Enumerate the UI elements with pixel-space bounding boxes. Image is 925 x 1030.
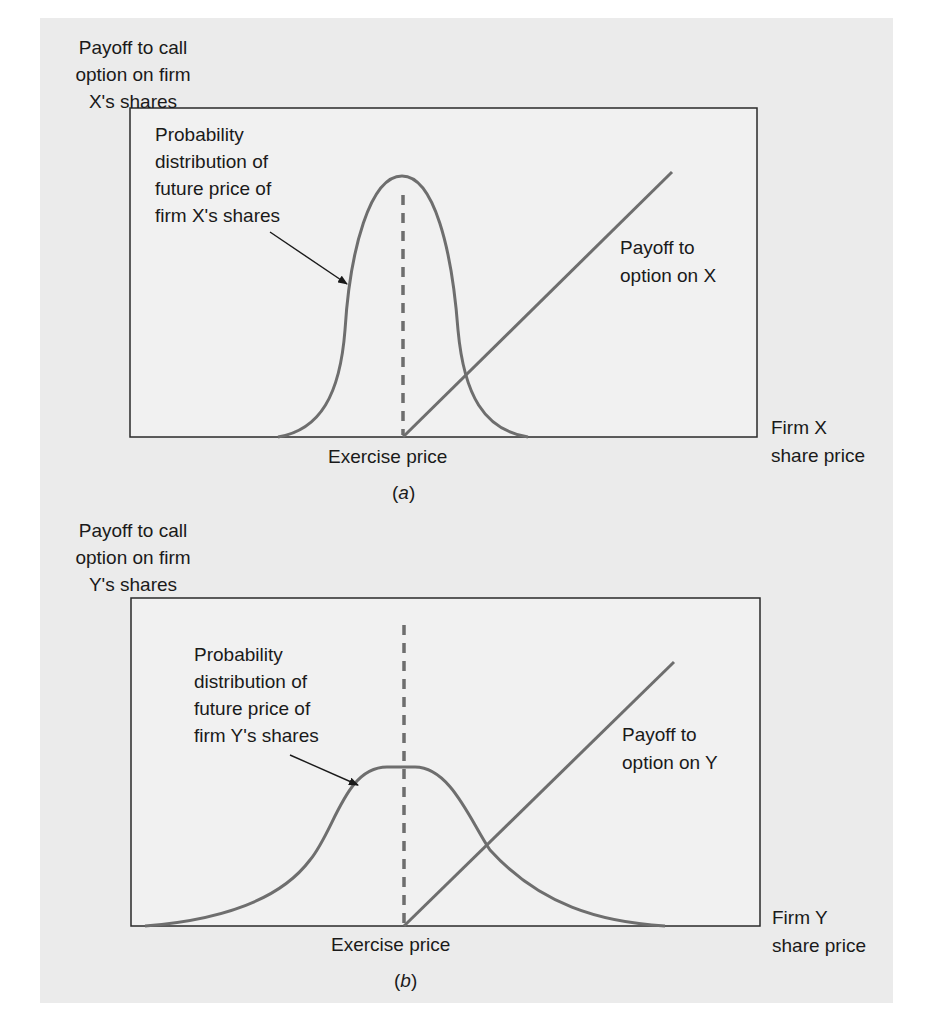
panel-a-distribution-label: Probability distribution of future price… (155, 121, 280, 229)
caption-letter: a (398, 482, 409, 503)
caption-close-paren: ) (409, 482, 415, 503)
panel-b-x-axis-label: Firm Y share price (772, 904, 866, 960)
panel-a-y-axis-label: Payoff to call option on firm X's shares (58, 34, 208, 115)
panel-a-caption: (a) (392, 482, 415, 504)
panel-b-caption: (b) (394, 970, 417, 992)
panel-b-exercise-price-label: Exercise price (331, 934, 450, 956)
panel-b-y-axis-label: Payoff to call option on firm Y's shares (58, 517, 208, 598)
panel-b-payoff-label: Payoff to option on Y (622, 721, 718, 777)
caption-letter: b (400, 970, 411, 991)
panel-b-distribution-label: Probability distribution of future price… (194, 641, 319, 749)
caption-close-paren: ) (411, 970, 417, 991)
panel-a-x-axis-label: Firm X share price (771, 414, 865, 470)
panel-a-exercise-price-label: Exercise price (328, 446, 447, 468)
panel-a-payoff-label: Payoff to option on X (620, 234, 716, 290)
